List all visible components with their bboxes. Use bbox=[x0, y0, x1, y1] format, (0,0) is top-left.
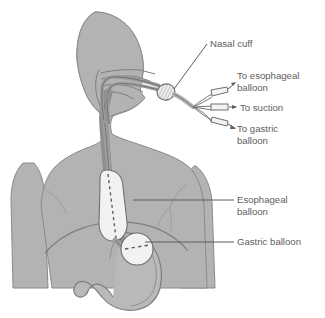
to-gastric-balloon-label-line2: balloon bbox=[237, 135, 268, 146]
to-esophageal-balloon-label-line2: balloon bbox=[237, 82, 268, 93]
diagram-canvas: Nasal cuff To esophageal balloon To suct… bbox=[0, 0, 325, 318]
to-suction-label: To suction bbox=[240, 102, 283, 113]
gastric-balloon bbox=[121, 233, 153, 265]
to-esophageal-balloon-label: To esophageal bbox=[237, 70, 299, 81]
to-gastric-balloon-label: To gastric bbox=[237, 123, 278, 134]
diagram-svg: Nasal cuff To esophageal balloon To suct… bbox=[0, 0, 325, 318]
port-suction bbox=[211, 104, 228, 110]
gastric-balloon-label: Gastric balloon bbox=[237, 236, 301, 247]
esophageal-balloon-label-line2: balloon bbox=[237, 206, 268, 217]
left-arm-silhouette bbox=[11, 163, 48, 288]
nasal-cuff-label: Nasal cuff bbox=[210, 38, 253, 49]
esophageal-balloon-label: Esophageal bbox=[237, 194, 288, 205]
